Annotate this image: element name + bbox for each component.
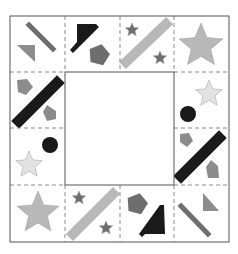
puzzle-tile-r1c0 [10,72,65,128]
puzzle-tile-r3c1 [65,185,120,242]
puzzle-tile-r3c2 [120,185,174,242]
missing-piece-area [65,72,174,185]
puzzle-tile-r2c0 [10,128,65,185]
circle-shape-black [180,106,196,122]
tile-background [10,16,65,72]
puzzle-tile-r3c0 [10,185,65,242]
puzzle-tile-r0c3 [174,16,229,72]
puzzle-figure [0,0,238,254]
puzzle-tile-r3c3 [174,185,229,242]
puzzle-tile-r0c2 [120,16,174,72]
puzzle-tile-r1c3 [174,72,229,128]
tile-background [174,185,229,242]
puzzle-tile-r0c1 [65,16,120,72]
puzzle-tile-r2c3 [174,128,229,185]
tile-background [10,128,65,185]
tile-background [174,72,229,128]
puzzle-canvas [0,0,238,254]
puzzle-tile-r0c0 [10,16,65,72]
circle-shape-black [42,137,58,153]
